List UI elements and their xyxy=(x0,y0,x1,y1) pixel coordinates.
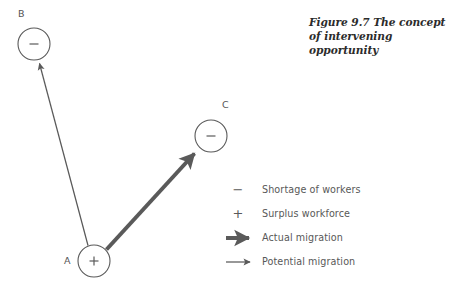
node-label-c: C xyxy=(222,99,229,110)
node-c xyxy=(195,120,227,152)
arrow-a-to-b-potential xyxy=(40,64,89,246)
legend-item-actual-migration: Actual migration xyxy=(224,226,434,250)
legend-label-surplus: Surplus workforce xyxy=(262,202,350,226)
node-label-b: B xyxy=(18,8,25,19)
legend-item-shortage: − Shortage of workers xyxy=(224,178,434,202)
node-label-a: A xyxy=(64,255,71,266)
thin-arrow-icon xyxy=(224,250,262,274)
minus-icon: − xyxy=(224,178,262,202)
legend-label-actual-migration: Actual migration xyxy=(262,226,343,250)
plus-icon: + xyxy=(224,202,262,226)
node-a xyxy=(78,245,110,277)
legend-item-potential-migration: Potential migration xyxy=(224,250,434,274)
figure-container: B C A Figure 9.7 The concept of interven… xyxy=(0,0,456,295)
legend-label-potential-migration: Potential migration xyxy=(262,250,355,274)
arrow-a-to-c-actual xyxy=(107,154,195,250)
legend-label-shortage: Shortage of workers xyxy=(262,178,361,202)
node-b xyxy=(18,28,50,60)
figure-caption: Figure 9.7 The concept of intervening op… xyxy=(309,15,451,57)
legend-item-surplus: + Surplus workforce xyxy=(224,202,434,226)
thick-arrow-icon xyxy=(224,226,262,250)
legend: − Shortage of workers + Surplus workforc… xyxy=(224,178,434,274)
